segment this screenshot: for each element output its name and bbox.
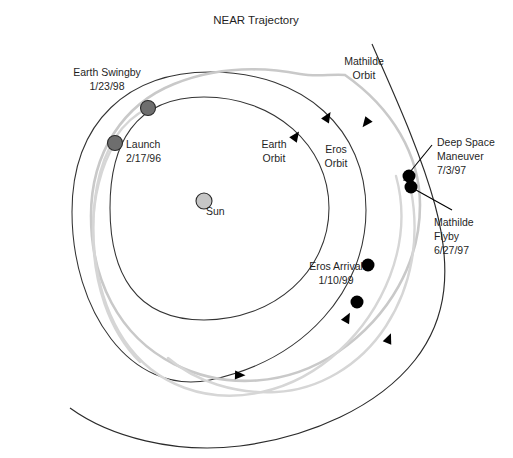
arrow-eros-orbit-lower-icon — [341, 311, 354, 325]
deep-space-maneuver-label-line1: Deep Space — [437, 136, 495, 148]
trajectory-point-marker — [351, 296, 364, 309]
spacecraft-trajectory-launch-leg — [93, 143, 140, 362]
annotation-labels: Earth Swingby 1/23/98 Launch 2/17/96 Sun… — [73, 55, 495, 286]
deep-space-maneuver-leader — [410, 145, 432, 172]
launch-date: 2/17/96 — [126, 152, 161, 164]
earth-swingby-date: 1/23/98 — [89, 80, 124, 92]
orbit-paths — [70, 44, 445, 448]
earth-swingby-label: Earth Swingby — [73, 66, 141, 78]
near-trajectory-diagram: NEAR Trajectory — [0, 0, 513, 458]
mathilde-orbit-label-line2: Orbit — [353, 69, 376, 81]
spacecraft-trajectory-outer — [91, 69, 420, 380]
mathilde-flyby-label-line2: Flyby — [434, 230, 460, 242]
arrow-trajectory-upper-icon — [359, 116, 373, 130]
earth-orbit-label-line2: Orbit — [263, 152, 286, 164]
eros-orbit-label-line2: Orbit — [325, 157, 348, 169]
mathilde-orbit-label-line1: Mathilde — [344, 55, 384, 67]
spacecraft-trajectory-arrival — [168, 190, 415, 392]
deep-space-maneuver-label-line2: Maneuver — [437, 150, 484, 162]
sun-label: Sun — [206, 205, 225, 217]
mathilde-orbit-path — [70, 44, 445, 448]
eros-arrival-label: Eros Arrival — [309, 260, 363, 272]
mathilde-flyby-marker — [405, 181, 418, 194]
eros-arrival-date: 1/10/99 — [318, 274, 353, 286]
markers — [108, 101, 418, 309]
deep-space-maneuver-marker — [403, 170, 416, 183]
eros-orbit-label-line1: Eros — [325, 143, 347, 155]
arrow-eros-orbit-upper-icon — [321, 110, 334, 124]
mathilde-flyby-label-line1: Mathilde — [434, 216, 474, 228]
deep-space-maneuver-date: 7/3/97 — [437, 164, 466, 176]
eros-arrival-marker — [362, 259, 375, 272]
earth-swingby-marker — [141, 101, 156, 116]
mathilde-flyby-leader — [416, 190, 452, 210]
arrow-earth-orbit-upper-icon — [289, 129, 303, 143]
direction-arrows — [235, 110, 395, 380]
earth-orbit-label-line1: Earth — [261, 138, 286, 150]
arrow-trajectory-lower-right-icon — [383, 332, 395, 345]
mathilde-flyby-date: 6/27/97 — [434, 244, 469, 256]
page-title: NEAR Trajectory — [213, 14, 299, 26]
launch-label: Launch — [126, 138, 161, 150]
launch-marker — [108, 136, 123, 151]
